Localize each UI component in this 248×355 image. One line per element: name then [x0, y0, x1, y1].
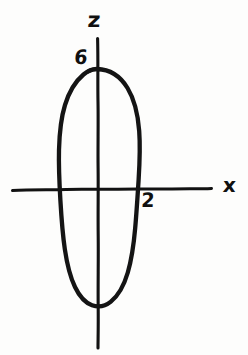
z-axis-label: z: [87, 10, 100, 31]
ellipse-sketch-svg: [0, 0, 248, 355]
z-intercept-label: 6: [74, 47, 89, 67]
x-intercept-label: 2: [141, 190, 155, 210]
sketch-canvas: z x 6 2: [0, 0, 248, 355]
x-axis-label: x: [222, 175, 236, 195]
z-axis-line: [98, 39, 99, 349]
x-axis-line: [13, 188, 212, 190]
